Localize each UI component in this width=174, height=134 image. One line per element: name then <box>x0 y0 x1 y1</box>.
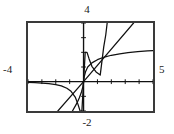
axes-group <box>28 23 153 111</box>
curve-group <box>28 23 153 111</box>
graph-screenshot: 4 -2 -4 5 <box>0 0 174 134</box>
y-max-label: 4 <box>0 4 174 15</box>
x-max-label: 5 <box>159 64 165 75</box>
plot-canvas <box>28 23 153 111</box>
x-min-label: -4 <box>3 64 12 75</box>
y-min-label: -2 <box>0 117 174 128</box>
curve-straight-line <box>58 23 134 111</box>
plot-frame <box>26 21 155 113</box>
